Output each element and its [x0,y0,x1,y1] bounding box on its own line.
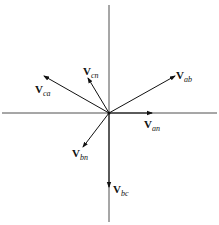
origin-point [108,112,111,115]
phasor-vbc-label: Vbc [113,183,129,198]
phasor-diagram: VanVabVbcVcaVcnVbn [0,0,219,225]
phasor-vcn-label: Vcn [83,65,99,80]
phasor-vab-arrow [109,76,175,113]
phasor-vbn-label: Vbn [72,147,88,162]
phasor-vca-arrow [44,76,109,113]
phasor-vab-label: Vab [176,69,192,84]
phasor-vbn-arrow [83,113,109,147]
phasor-vca-label: Vca [35,83,51,98]
phasor-vcn-arrow [88,78,109,113]
phasor-van-label: Van [144,118,160,133]
